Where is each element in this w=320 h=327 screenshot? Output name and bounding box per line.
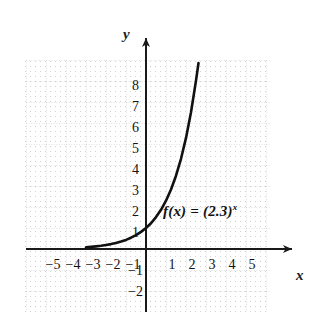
grid-unit-lines — [26, 60, 270, 312]
function-annotation-main: f(x) = (2.3) — [163, 203, 233, 219]
x-tick-1: −4 — [65, 258, 81, 272]
x-tick-5: 1 — [164, 258, 180, 272]
exponential-function-figure: y x −5−4−3−2−112345 87654321−1−2 f(x) = … — [0, 0, 320, 327]
y-axis-label: y — [123, 27, 130, 42]
graph-canvas — [0, 0, 320, 327]
x-tick-7: 3 — [204, 258, 220, 272]
x-tick-2: −3 — [85, 258, 101, 272]
x-tick-9: 5 — [244, 258, 260, 272]
x-tick-6: 2 — [184, 258, 200, 272]
y-tick-5: 3 — [123, 184, 139, 198]
x-tick-8: 4 — [224, 258, 240, 272]
y-tick-8: −1 — [127, 264, 143, 278]
y-tick-6: 2 — [123, 205, 139, 219]
y-tick-1: 7 — [123, 100, 139, 114]
y-tick-9: −2 — [127, 285, 143, 299]
y-tick-0: 8 — [123, 79, 139, 93]
y-tick-4: 4 — [123, 163, 139, 177]
y-tick-3: 5 — [123, 142, 139, 156]
function-annotation-exponent: x — [233, 202, 238, 212]
x-axis-label: x — [296, 268, 304, 283]
x-tick-0: −5 — [45, 258, 61, 272]
y-tick-2: 6 — [123, 121, 139, 135]
y-tick-7: 1 — [123, 226, 139, 240]
function-annotation: f(x) = (2.3)x — [163, 203, 237, 220]
x-tick-3: −2 — [105, 258, 121, 272]
